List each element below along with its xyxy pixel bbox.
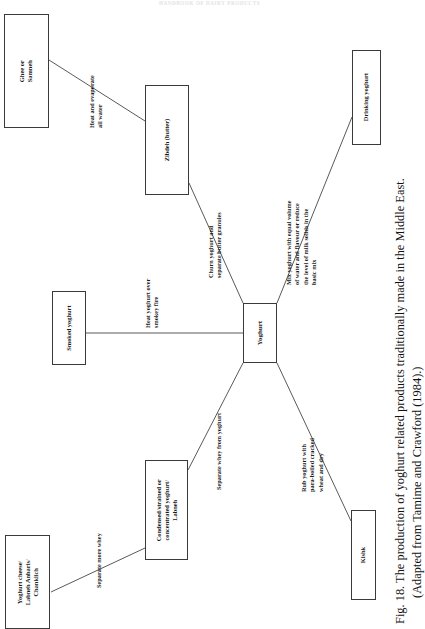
node-drinking-yoghurt[interactable]: Drinking yoghurt	[352, 50, 381, 145]
edge-label-churn-yoghurt: Churn yoghurt and separate butter granul…	[207, 212, 224, 278]
running-head: HANDBOOK OF DAIRY PRODUCTS	[0, 0, 419, 6]
node-smoked-yoghurt[interactable]: Smoked yoghurt	[52, 291, 86, 365]
figure-caption-line-2: (Adapted from Tamime and Crawford (1984)…	[409, 178, 425, 624]
edge-label-heat-and-evaporate: Heat and evaporate all water	[88, 75, 105, 128]
node-yoghurt-label: Yoghurt	[256, 321, 264, 346]
edge-label-heat-yoghurt-over-smokey-fire: Heat yoghurt over smokey fire	[144, 279, 161, 328]
node-yoghurt[interactable]: Yoghurt	[243, 303, 277, 363]
node-zibdeh-butter[interactable]: Zibdeh (butter)	[145, 85, 189, 195]
edge-label-separate-whey-from-yoghurt: Separate whey from yoghurt	[215, 413, 223, 490]
edge-label-rub-yoghurt: Rub yoghurt with para-boiled cracked whe…	[300, 438, 325, 492]
node-kishk[interactable]: Kishk	[351, 510, 376, 600]
figure-caption: Fig. 18. The production of yoghurt relat…	[392, 178, 425, 624]
figure-caption-line-1: Fig. 18. The production of yoghurt relat…	[393, 178, 407, 624]
node-yoghurt-cheese-label: Yoghurt cheese/ Labneh Anbaris/ Chanklic…	[15, 559, 40, 605]
node-yoghurt-cheese[interactable]: Yoghurt cheese/ Labneh Anbaris/ Chanklic…	[5, 535, 50, 629]
edge-label-mix-yoghurt: Mix yoghurt with equal volume of water a…	[285, 200, 319, 285]
node-ghee-or-samneh-label: Ghee or Samneh	[18, 60, 34, 82]
node-kishk-label: Kishk	[359, 547, 367, 563]
node-zibdeh-butter-label: Zibdeh (butter)	[163, 119, 171, 161]
node-condensed-strained-yoghurt-labneh-label: Condensed/strained or concentrated yoghu…	[154, 479, 179, 541]
node-smoked-yoghurt-label: Smoked yoghurt	[65, 305, 73, 350]
node-ghee-or-samneh[interactable]: Ghee or Samneh	[4, 14, 49, 128]
node-condensed-strained-yoghurt-labneh[interactable]: Condensed/strained or concentrated yoghu…	[145, 460, 188, 560]
edge-label-separate-more-whey: Separate more whey	[95, 533, 103, 588]
node-drinking-yoghurt-label: Drinking yoghurt	[362, 73, 370, 121]
